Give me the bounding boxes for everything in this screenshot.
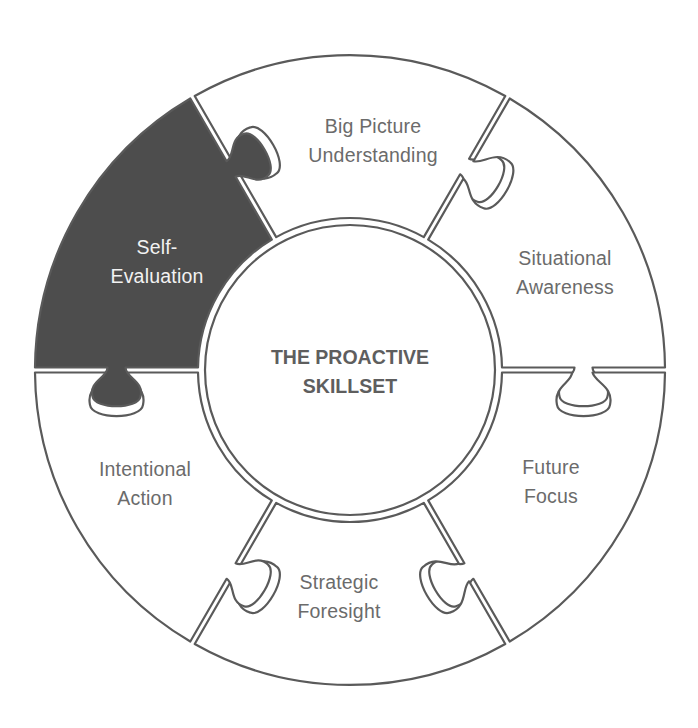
label-self-evaluation: Self- Evaluation bbox=[110, 233, 203, 291]
label-line2: Evaluation bbox=[110, 262, 203, 291]
label-line2: Understanding bbox=[308, 141, 437, 170]
label-line1: Big Picture bbox=[308, 112, 437, 141]
label-intentional-action: Intentional Action bbox=[99, 455, 191, 513]
label-big-picture-understanding: Big Picture Understanding bbox=[308, 112, 437, 170]
label-future-focus: Future Focus bbox=[522, 453, 580, 511]
label-line2: Awareness bbox=[516, 273, 614, 302]
label-line2: Foresight bbox=[297, 597, 380, 626]
label-line1: Future bbox=[522, 453, 580, 482]
label-line1: Strategic bbox=[297, 568, 380, 597]
center-title: THE PROACTIVE SKILLSET bbox=[271, 343, 429, 401]
label-line1: Situational bbox=[516, 244, 614, 273]
label-strategic-foresight: Strategic Foresight bbox=[297, 568, 380, 626]
label-line2: Action bbox=[99, 484, 191, 513]
center-title-line1: THE PROACTIVE bbox=[271, 343, 429, 372]
label-line1: Intentional bbox=[99, 455, 191, 484]
label-line2: Focus bbox=[522, 482, 580, 511]
label-line1: Self- bbox=[110, 233, 203, 262]
center-title-line2: SKILLSET bbox=[271, 372, 429, 401]
label-situational-awareness: Situational Awareness bbox=[516, 244, 614, 302]
